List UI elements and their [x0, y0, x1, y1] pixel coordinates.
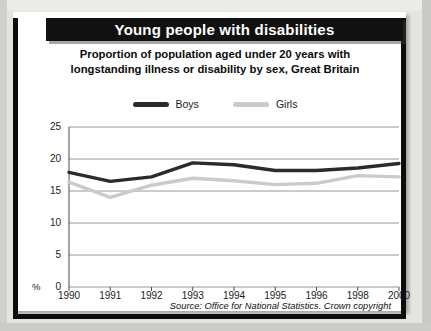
page-right-margin — [422, 0, 431, 331]
y-axis-unit-label: % — [32, 281, 40, 292]
chart-subtitle: Proportion of population aged under 20 y… — [35, 47, 395, 77]
y-tick-label-5: 5 — [35, 249, 61, 260]
x-tick-label-1998: 1998 — [338, 290, 378, 301]
plot-area: 25201510500 1990199119921993199419951996… — [35, 116, 405, 296]
y-tick-label-15: 15 — [35, 185, 61, 196]
chart-subtitle-line-2: longstanding illness or disability by se… — [35, 62, 395, 77]
legend-label-girls: Girls — [276, 98, 298, 110]
plot-canvas — [35, 116, 405, 296]
y-tick-label-25: 25 — [35, 121, 61, 132]
line-swatch-icon — [233, 102, 269, 107]
figure-card: Young people with disabilities Proportio… — [13, 12, 406, 311]
legend-item-boys: Boys — [133, 98, 199, 110]
chart-title: Young people with disabilities — [46, 18, 403, 41]
x-tick-label-1993: 1993 — [173, 290, 213, 301]
y-tick-label-20: 20 — [35, 153, 61, 164]
page-background: Young people with disabilities Proportio… — [0, 0, 431, 331]
x-tick-label-1991: 1991 — [90, 290, 130, 301]
y-tick-label-10: 10 — [35, 217, 61, 228]
source-note: Source: Office for National Statistics. … — [170, 301, 391, 311]
legend-item-girls: Girls — [233, 98, 298, 110]
page-left-margin — [0, 0, 7, 331]
page-bottom-margin — [0, 323, 431, 331]
x-tick-label-1996: 1996 — [297, 290, 337, 301]
chart-legend: Boys Girls — [35, 98, 395, 110]
figure-frame-left — [13, 18, 18, 319]
page-top-strip — [7, 0, 422, 11]
x-tick-label-1990: 1990 — [49, 290, 89, 301]
x-tick-label-1994: 1994 — [214, 290, 254, 301]
legend-label-boys: Boys — [176, 98, 199, 110]
x-tick-label-1992: 1992 — [132, 290, 172, 301]
chart-subtitle-line-1: Proportion of population aged under 20 y… — [80, 48, 351, 60]
chart-title-bar: Young people with disabilities — [46, 18, 403, 41]
x-tick-label-1995: 1995 — [255, 290, 295, 301]
figure-frame-bottom — [13, 314, 406, 319]
line-swatch-icon — [133, 102, 169, 107]
x-tick-label-2000: 2000 — [379, 290, 419, 301]
